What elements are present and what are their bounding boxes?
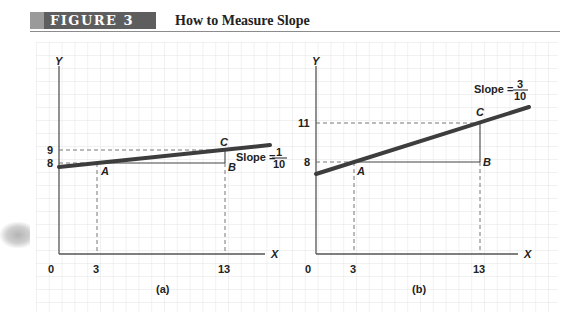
- point-a-label-a: A: [100, 165, 109, 177]
- point-b-label-a: B: [228, 161, 236, 173]
- point-c-label-a: C: [220, 136, 229, 148]
- slope-denominator-a: 10: [273, 158, 285, 170]
- slope-denominator-b: 10: [514, 90, 526, 102]
- y-tick-8-a: 8: [47, 157, 53, 169]
- x-tick-3-b: 3: [350, 263, 356, 275]
- point-a-label-b: A: [356, 165, 365, 177]
- slope-numerator-a: 1: [276, 146, 282, 158]
- caption-a: (a): [156, 283, 170, 295]
- x-tick-13-a: 13: [218, 263, 230, 275]
- slope-label-a: Slope =: [236, 151, 275, 163]
- x-tick-3-a: 3: [93, 263, 99, 275]
- x-tick-13-b: 13: [473, 263, 485, 275]
- slope-numerator-b: 3: [517, 78, 523, 90]
- slope-figure: Y X 0 3 13 8 9 A B C Slope = 1 10 (a) Y …: [0, 0, 569, 319]
- point-b-label-b: B: [483, 156, 491, 168]
- x-axis-label-b: X: [523, 248, 532, 260]
- y-tick-11-b: 11: [298, 117, 310, 129]
- caption-b: (b): [412, 283, 426, 295]
- origin-label-b: 0: [305, 263, 311, 275]
- slope-label-b: Slope =: [474, 83, 513, 95]
- origin-label-a: 0: [48, 263, 54, 275]
- point-c-label-b: C: [476, 106, 485, 118]
- y-tick-8-b: 8: [304, 156, 310, 168]
- x-axis-label-a: X: [270, 248, 279, 260]
- y-tick-9-a: 9: [47, 144, 53, 156]
